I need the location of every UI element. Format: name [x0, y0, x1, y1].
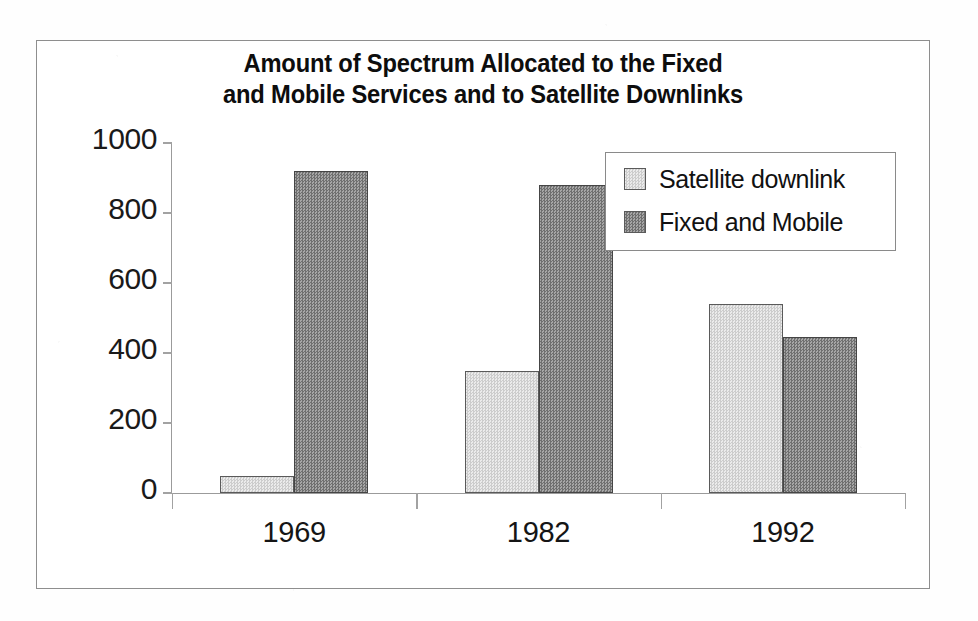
legend-item-satellite-downlink: Satellite downlink — [624, 162, 845, 196]
legend-swatch-icon-fixed-and-mobile — [624, 211, 646, 233]
y-tick-label-200: 200 — [61, 402, 157, 436]
legend-item-fixed-and-mobile: Fixed and Mobile — [624, 205, 843, 239]
x-tick-mark-end — [905, 493, 906, 509]
x-tick-label-1982: 1982 — [449, 516, 629, 549]
bar-1992-satellite-downlink — [709, 304, 783, 493]
y-tick-label-600: 600 — [61, 262, 157, 296]
y-tick-mark-400 — [163, 352, 172, 353]
y-tick-mark-800 — [163, 212, 172, 213]
y-tick-label-1000: 1000 — [61, 122, 157, 156]
legend-label-fixed-and-mobile: Fixed and Mobile — [659, 208, 843, 237]
y-tick-mark-0 — [163, 492, 172, 493]
legend-swatch-icon-satellite-downlink — [624, 168, 646, 190]
legend-label-satellite-downlink: Satellite downlink — [659, 165, 845, 194]
y-axis-tick-labels: 02004006008001000 — [52, 0, 157, 621]
chart-legend: Satellite downlink Fixed and Mobile — [605, 152, 896, 251]
bar-1969-satellite-downlink — [220, 476, 294, 494]
bar-1982-fixed-and-mobile — [539, 185, 613, 493]
x-tick-label-1969: 1969 — [204, 516, 384, 549]
x-tick-mark-1982 — [416, 493, 417, 509]
bar-1992-fixed-and-mobile — [783, 337, 857, 493]
bar-1969-fixed-and-mobile — [294, 171, 368, 493]
y-tick-label-0: 0 — [61, 472, 157, 506]
y-tick-label-800: 800 — [61, 192, 157, 226]
y-tick-label-400: 400 — [61, 332, 157, 366]
y-tick-mark-1000 — [163, 142, 172, 143]
x-tick-mark-1992 — [661, 493, 662, 509]
x-tick-label-1992: 1992 — [693, 516, 873, 549]
y-tick-mark-600 — [163, 282, 172, 283]
bar-1982-satellite-downlink — [465, 371, 539, 494]
y-tick-mark-200 — [163, 422, 172, 423]
x-tick-mark-1969 — [172, 493, 173, 509]
chart-title: Amount of Spectrum Allocated to the Fixe… — [67, 48, 898, 110]
